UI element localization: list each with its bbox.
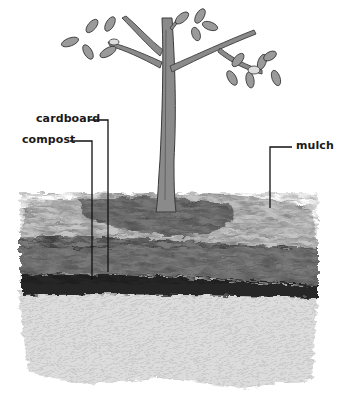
sheet-mulching-diagram: cardboard compost mulch [0, 0, 339, 400]
label-mulch: mulch [296, 139, 334, 152]
label-compost: compost [22, 133, 75, 146]
tree [60, 7, 282, 212]
soil-layer [18, 290, 318, 388]
illustration [0, 0, 339, 400]
label-cardboard: cardboard [36, 112, 100, 125]
leader-line-mulch [270, 147, 292, 208]
